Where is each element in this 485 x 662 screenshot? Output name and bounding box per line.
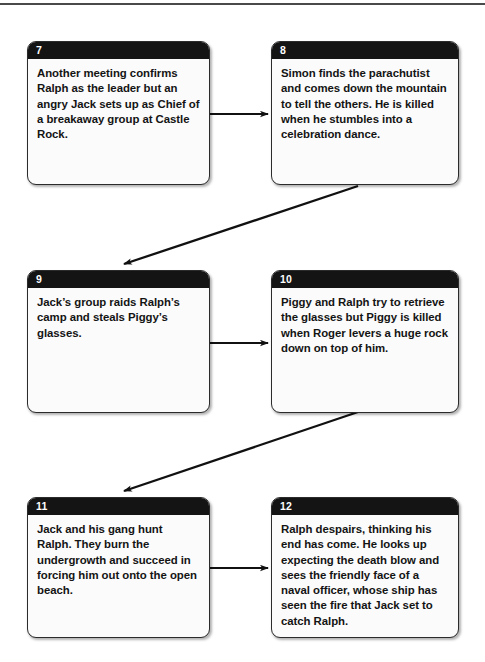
flow-box-11: 11 Jack and his gang hunt Ralph. They bu…: [27, 497, 210, 638]
flow-box-11-number: 11: [28, 498, 209, 515]
flow-box-10-text: Piggy and Ralph try to retrieve the glas…: [272, 288, 458, 362]
flow-box-12: 12 Ralph despairs, thinking his end has …: [271, 497, 459, 638]
flow-box-9: 9 Jack’s group raids Ralph’s camp and st…: [27, 270, 210, 413]
flow-box-9-number: 9: [28, 271, 209, 288]
flow-box-10: 10 Piggy and Ralph try to retrieve the g…: [271, 270, 459, 413]
flow-box-10-number: 10: [272, 271, 458, 288]
flow-box-8: 8 Simon finds the parachutist and comes …: [271, 41, 459, 185]
flow-box-12-text: Ralph despairs, thinking his end has com…: [272, 515, 458, 635]
flowchart-page: 7 Another meeting confirms Ralph as the …: [0, 0, 485, 662]
arrow-10-to-11: [124, 412, 358, 491]
flow-box-12-number: 12: [272, 498, 458, 515]
flow-box-11-text: Jack and his gang hunt Ralph. They burn …: [28, 515, 209, 604]
flow-box-7-number: 7: [28, 42, 209, 59]
flow-box-7: 7 Another meeting confirms Ralph as the …: [27, 41, 210, 185]
flow-box-8-text: Simon finds the parachutist and comes do…: [272, 59, 458, 148]
arrow-8-to-9: [124, 186, 358, 264]
flow-box-7-text: Another meeting confirms Ralph as the le…: [28, 59, 209, 148]
top-horizontal-rule: [0, 3, 485, 5]
flow-box-8-number: 8: [272, 42, 458, 59]
flow-box-9-text: Jack’s group raids Ralph’s camp and stea…: [28, 288, 209, 347]
